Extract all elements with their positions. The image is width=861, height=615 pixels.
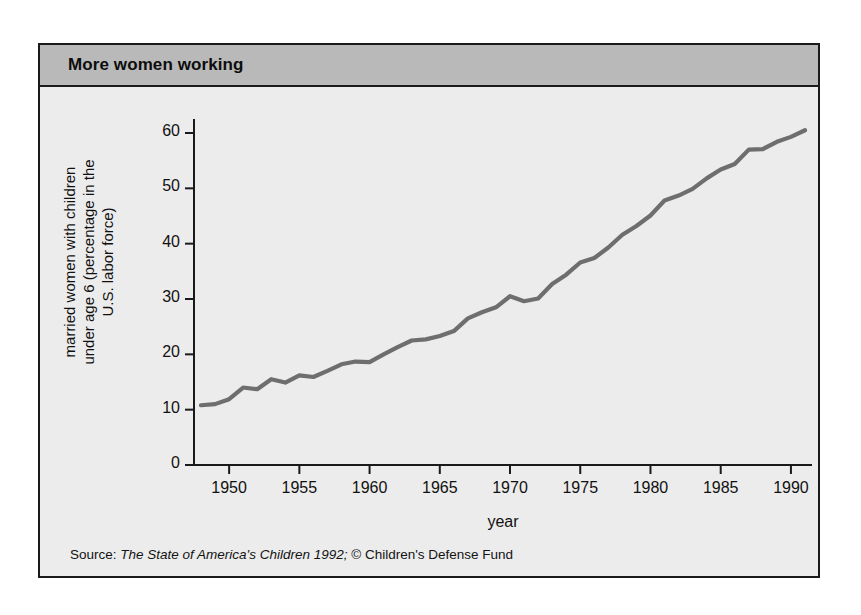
- y-tick-label: 20: [162, 343, 180, 361]
- x-tick-label: 1955: [282, 479, 318, 497]
- figure-frame: More women working married women with ch…: [38, 43, 820, 578]
- x-tick-label: 1965: [422, 479, 458, 497]
- source-note: Source: The State of America's Children …: [70, 547, 513, 562]
- chart-plot-svg: [40, 87, 818, 578]
- source-credit: © Children's Defense Fund: [351, 547, 513, 562]
- x-tick-label: 1960: [352, 479, 388, 497]
- y-tick-label: 40: [162, 233, 180, 251]
- x-tick-label: 1990: [773, 479, 809, 497]
- y-tick-label: 30: [162, 288, 180, 306]
- x-tick-label: 1980: [633, 479, 669, 497]
- x-axis-label: year: [487, 513, 518, 531]
- source-prefix: Source:: [70, 547, 117, 562]
- y-tick-label: 50: [162, 177, 180, 195]
- source-work-title: The State of America's Children 1992;: [120, 547, 347, 562]
- y-tick-label: 60: [162, 122, 180, 140]
- x-tick-label: 1970: [492, 479, 528, 497]
- chart-title-band: More women working: [40, 45, 818, 87]
- y-axis-label: married women with children under age 6 …: [58, 0, 118, 97]
- plot-region: married women with children under age 6 …: [40, 87, 818, 576]
- screenshot-page: More women working married women with ch…: [0, 0, 861, 615]
- x-tick-label: 1985: [703, 479, 739, 497]
- data-series-line: [201, 130, 805, 405]
- y-tick-label: 10: [162, 399, 180, 417]
- y-tick-label: 0: [171, 454, 180, 472]
- x-tick-label: 1975: [562, 479, 598, 497]
- x-tick-label: 1950: [211, 479, 247, 497]
